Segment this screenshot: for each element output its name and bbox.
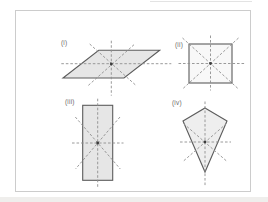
center-point-dot <box>96 142 99 145</box>
parallelogram-figure <box>54 37 176 99</box>
center-point-dot <box>204 141 207 144</box>
square-figure <box>172 31 250 95</box>
page-edge-artifact-top <box>150 1 252 2</box>
page-edge-artifact-bottom <box>0 197 268 202</box>
center-point-dot <box>209 62 212 65</box>
figure-page: (i) (ii) (iii) <box>0 0 268 202</box>
center-point-dot <box>110 63 113 66</box>
rectangle-figure <box>64 95 128 193</box>
symmetry-figure-box: (i) (ii) (iii) <box>15 10 251 192</box>
kite-figure <box>169 95 251 193</box>
